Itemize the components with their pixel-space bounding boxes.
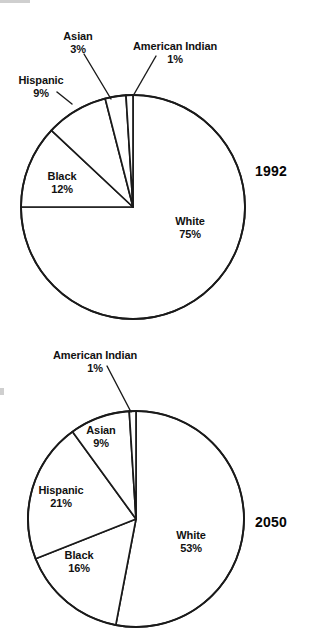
- leader-line-asian: [84, 54, 111, 99]
- slice-label-name: White: [175, 215, 204, 228]
- year-label-1992: 1992: [255, 163, 287, 179]
- slice-label-asian-1992: Asian3%: [63, 30, 92, 55]
- slice-label-white-1992: White75%: [175, 215, 204, 240]
- slice-label-american-indian-2050: American Indian1%: [53, 349, 137, 374]
- slice-label-hispanic-2050: Hispanic21%: [38, 484, 83, 509]
- slice-label-percent: 1%: [53, 362, 137, 375]
- year-label-2050: 2050: [255, 514, 287, 530]
- slice-label-name: White: [176, 529, 205, 542]
- slice-label-american-indian-1992: American Indian1%: [133, 40, 217, 65]
- slice-label-percent: 16%: [65, 562, 94, 575]
- slice-label-name: Black: [65, 549, 94, 562]
- slice-label-percent: 9%: [18, 87, 63, 100]
- slice-label-black-1992: Black12%: [48, 170, 77, 195]
- slice-label-name: American Indian: [133, 40, 217, 53]
- slice-label-hispanic-1992: Hispanic9%: [18, 74, 63, 99]
- slice-label-name: American Indian: [53, 349, 137, 362]
- slice-label-black-2050: Black16%: [65, 549, 94, 574]
- slice-label-white-2050: White53%: [176, 529, 205, 554]
- slice-label-name: Black: [48, 170, 77, 183]
- slice-label-percent: 75%: [175, 228, 204, 241]
- slice-label-name: Asian: [63, 30, 92, 43]
- slice-label-percent: 3%: [63, 43, 92, 56]
- slice-label-name: Asian: [86, 424, 115, 437]
- slice-label-percent: 21%: [38, 497, 83, 510]
- slice-label-name: Hispanic: [18, 74, 63, 87]
- slice-label-percent: 9%: [86, 437, 115, 450]
- slice-label-name: Hispanic: [38, 484, 83, 497]
- slice-label-percent: 12%: [48, 183, 77, 196]
- figure-root: White75%Black12%Hispanic9%Asian3%America…: [0, 0, 315, 643]
- slice-label-percent: 1%: [133, 53, 217, 66]
- slice-label-percent: 53%: [176, 542, 205, 555]
- slice-label-asian-2050: Asian9%: [86, 424, 115, 449]
